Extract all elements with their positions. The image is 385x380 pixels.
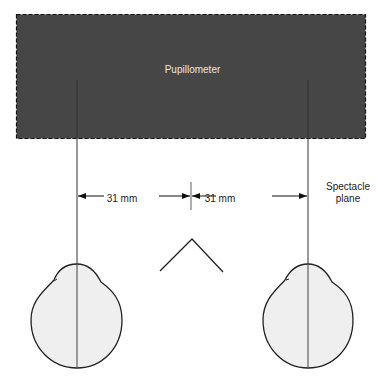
left-eye <box>31 264 122 368</box>
distance-label-right: 31 mm <box>197 193 243 204</box>
spectacle-plane-line2: plane <box>318 193 378 205</box>
distance-label-left: 31 mm <box>99 193 145 204</box>
pupillometer-label: Pupillometer <box>0 64 385 75</box>
right-eye <box>263 264 353 368</box>
spectacle-plane-label: Spectacle plane <box>318 181 378 205</box>
spectacle-plane-line1: Spectacle <box>318 181 378 193</box>
nose-shape <box>160 239 223 272</box>
pupillometer-box <box>17 15 366 139</box>
